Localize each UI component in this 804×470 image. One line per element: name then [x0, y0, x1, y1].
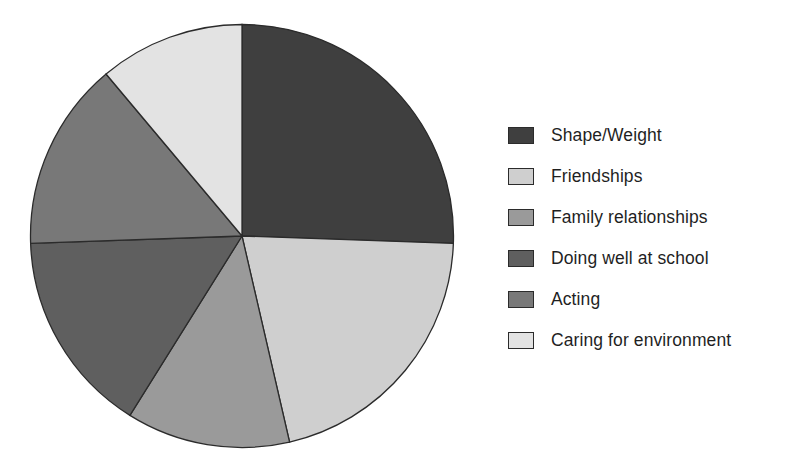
legend-item-label: Shape/Weight — [551, 127, 662, 145]
pie-slice — [242, 25, 453, 244]
legend-item-label: Friendships — [551, 168, 643, 186]
chart-legend: Shape/WeightFriendshipsFamily relationsh… — [508, 115, 798, 361]
legend-item-label: Family relationships — [551, 209, 708, 227]
legend-item: Family relationships — [508, 197, 798, 238]
pie-chart-figure: Shape/WeightFriendshipsFamily relationsh… — [0, 0, 804, 470]
legend-item: Acting — [508, 279, 798, 320]
pie-chart-plot-area — [29, 23, 455, 449]
legend-item-label: Acting — [551, 291, 600, 309]
legend-item: Friendships — [508, 156, 798, 197]
legend-swatch-icon — [508, 127, 534, 144]
pie-chart-svg — [29, 23, 455, 449]
legend-swatch-icon — [508, 168, 534, 185]
legend-item-label: Caring for environment — [551, 332, 731, 350]
legend-item-label: Doing well at school — [551, 250, 709, 268]
legend-item: Doing well at school — [508, 238, 798, 279]
legend-swatch-icon — [508, 250, 534, 267]
legend-swatch-icon — [508, 209, 534, 226]
legend-swatch-icon — [508, 332, 534, 349]
pie-slice-group — [31, 25, 454, 448]
legend-item: Caring for environment — [508, 320, 798, 361]
legend-swatch-icon — [508, 291, 534, 308]
legend-item: Shape/Weight — [508, 115, 798, 156]
